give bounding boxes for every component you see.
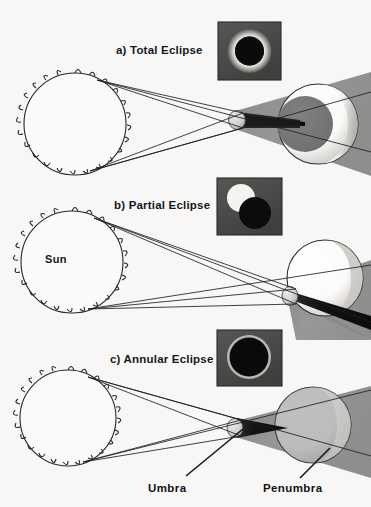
eclipse-diagram-svg: a) Total Eclipse xyxy=(0,0,371,507)
sun-disk-annular xyxy=(20,370,116,466)
panel-heading-partial: b) Partial Eclipse xyxy=(114,199,210,211)
annular-eclipse-photo xyxy=(217,330,282,386)
partial-eclipse-photo xyxy=(217,178,282,235)
sun-disk-partial xyxy=(21,211,123,313)
panel-heading-total: a) Total Eclipse xyxy=(116,44,203,56)
moon-disk-annular-photo xyxy=(230,338,269,377)
panel-heading-annular: c) Annular Eclipse xyxy=(110,353,214,365)
sun-label: Sun xyxy=(45,253,67,265)
moon-disk-partial-photo xyxy=(239,197,271,229)
umbra-label: Umbra xyxy=(148,482,187,494)
eclipse-figure: a) Total Eclipse xyxy=(0,0,371,507)
penumbra-label: Penumbra xyxy=(263,482,323,494)
sun-disk-total xyxy=(24,73,126,175)
total-eclipse-photo xyxy=(218,22,281,80)
moon-disk-total-photo xyxy=(235,37,264,66)
